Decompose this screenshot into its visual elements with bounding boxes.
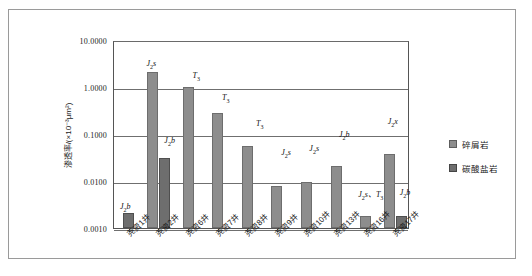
bar-annotation: J2s (309, 144, 319, 155)
bar-annotation: T3 (192, 71, 199, 82)
y-tick-label: 0.0010 (84, 225, 107, 234)
gridline (114, 89, 408, 90)
y-tick-label: 0.1000 (84, 131, 107, 140)
bar-annotation: J2x (388, 117, 398, 128)
legend-item: 碳酸盐岩 (449, 162, 523, 174)
gridline (114, 136, 408, 137)
legend-item: 碎屑岩 (449, 138, 523, 150)
bar-annotation: J2b (339, 130, 350, 141)
bar-clastic (212, 113, 223, 228)
bar-annotation: J2s、T3 (358, 188, 383, 201)
legend-swatch-icon (449, 164, 457, 172)
legend-label: 碎屑岩 (462, 138, 489, 150)
x-axis-tick-labels: 尧资1井尧资2井尧资6井尧资7井尧资8井尧资9井尧资10井尧资13井尧资16井尧… (113, 231, 409, 276)
bar-clastic (183, 87, 194, 228)
y-axis-tick-labels: 10.00001.00000.10000.01000.0010 (65, 41, 111, 229)
bar-annotation: T3 (222, 93, 229, 104)
y-tick-label: 10.0000 (80, 37, 107, 46)
bar-clastic (242, 146, 253, 228)
y-tick-label: 0.0100 (84, 178, 107, 187)
bar-annotation: J2s (147, 59, 157, 70)
bar-annotation: J2b (400, 188, 411, 199)
bar-clastic (147, 72, 158, 228)
legend-swatch-icon (449, 140, 457, 148)
chart-legend: 碎屑岩碳酸盐岩 (449, 138, 523, 186)
plot-area: J2bJ2sJ2bT3T3T3J2sJ2sJ2bJ2s、T3J2xJ2b (113, 41, 409, 229)
legend-label: 碳酸盐岩 (462, 162, 498, 174)
bar-annotation: J2s (281, 148, 291, 159)
y-tick-label: 1.0000 (84, 84, 107, 93)
bar-clastic (331, 166, 342, 228)
bar-annotation: J2b (120, 202, 131, 213)
bar-annotation: J2b (164, 136, 175, 147)
chart-frame: 渗透率/(×10⁻³μm²) 10.00001.00000.10000.0100… (8, 9, 516, 259)
bar-annotation: T3 (256, 119, 263, 130)
